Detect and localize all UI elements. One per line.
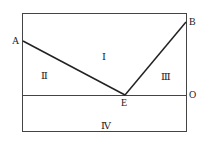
line-EB <box>125 22 186 95</box>
label-region-3: Ⅲ <box>161 72 171 82</box>
label-point-a: A <box>12 36 19 46</box>
label-region-2: Ⅱ <box>41 71 48 81</box>
label-point-o: O <box>189 90 196 100</box>
label-region-1: Ⅰ <box>102 52 106 62</box>
label-point-e: E <box>121 98 127 108</box>
line-AE <box>23 41 125 95</box>
label-region-4: Ⅳ <box>101 121 111 131</box>
label-point-b: B <box>189 17 196 27</box>
